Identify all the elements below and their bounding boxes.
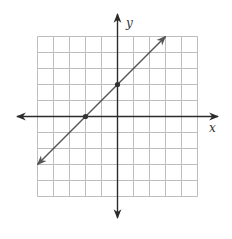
- marked-point: [115, 82, 120, 87]
- axes: [17, 14, 218, 218]
- x-axis-label: x: [209, 121, 216, 135]
- marked-point: [83, 114, 88, 119]
- coordinate-plane: x y: [0, 0, 232, 239]
- y-axis-label: y: [125, 16, 133, 30]
